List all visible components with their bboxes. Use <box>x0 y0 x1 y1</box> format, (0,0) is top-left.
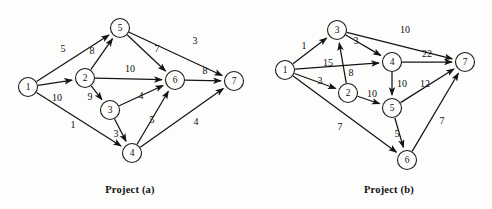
node-label-4: 4 <box>130 148 135 158</box>
edge-weight-3-4: 3 <box>354 35 359 46</box>
edge-1-to-4 <box>295 63 379 69</box>
node-label-2: 2 <box>346 88 351 98</box>
edge-weight-3-7: 10 <box>400 24 410 35</box>
edge-layer: 1153781031022101257 <box>293 24 458 153</box>
edge-weight-4-5: 10 <box>397 78 407 89</box>
edge-weight-3-4: 3 <box>114 128 119 139</box>
edge-1-to-2 <box>38 80 72 85</box>
graph-project-b: 11537810310221012571234567Project (b) <box>276 21 475 196</box>
edge-weight-2-3: 8 <box>349 67 354 78</box>
edge-3-to-7 <box>347 32 452 58</box>
graphs-root: 5101810943547381234567Project (a)1153781… <box>19 19 475 196</box>
node-3[interactable]: 3 <box>101 101 120 120</box>
edge-weight-4-7: 22 <box>422 48 432 59</box>
edge-1-to-3 <box>293 38 327 64</box>
node-label-6: 6 <box>405 155 410 165</box>
node-label-5: 5 <box>118 23 123 33</box>
edge-weight-4-6: 5 <box>150 114 155 125</box>
node-label-7: 7 <box>232 76 237 86</box>
node-1[interactable]: 1 <box>19 78 38 97</box>
node-2[interactable]: 2 <box>76 69 95 88</box>
node-label-1: 1 <box>26 82 31 92</box>
edge-3-to-4 <box>346 35 381 55</box>
edge-2-to-6 <box>95 78 162 79</box>
node-label-7: 7 <box>463 57 468 67</box>
edge-weight-2-3: 9 <box>88 91 93 102</box>
node-5[interactable]: 5 <box>111 19 130 38</box>
edge-weight-6-7: 7 <box>440 115 445 126</box>
node-label-3: 3 <box>108 105 113 115</box>
edge-weight-4-7: 4 <box>194 116 199 127</box>
node-label-4: 4 <box>390 57 395 67</box>
edge-weight-5-6: 5 <box>395 128 400 139</box>
edge-2-to-3 <box>91 86 102 100</box>
node-6[interactable]: 6 <box>166 71 185 90</box>
edge-6-to-7 <box>185 80 221 81</box>
edge-weight-1-5: 5 <box>61 43 66 54</box>
node-layer: 1234567 <box>19 19 244 163</box>
node-6[interactable]: 6 <box>398 151 417 170</box>
edge-2-to-3 <box>339 43 346 83</box>
graph-canvas: 5101810943547381234567Project (a)1153781… <box>0 0 492 209</box>
caption-project-b: Project (b) <box>364 184 414 196</box>
node-2[interactable]: 2 <box>339 84 358 103</box>
edge-weight-1-4: 1 <box>71 119 76 130</box>
node-5[interactable]: 5 <box>383 99 402 118</box>
edge-weight-1-2: 3 <box>318 75 323 86</box>
edge-weight-2-6: 10 <box>125 63 135 74</box>
node-1[interactable]: 1 <box>276 61 295 80</box>
edge-weight-3-6: 4 <box>139 90 144 101</box>
node-label-3: 3 <box>335 25 340 35</box>
edge-weight-5-7: 3 <box>193 35 198 46</box>
project-network-figure: 5101810943547381234567Project (a)1153781… <box>0 0 492 209</box>
edge-weight-1-2: 10 <box>52 92 62 103</box>
node-label-6: 6 <box>173 75 178 85</box>
edge-weight-1-3: 1 <box>302 40 307 51</box>
caption-project-a: Project (a) <box>105 184 155 196</box>
node-3[interactable]: 3 <box>328 21 347 40</box>
node-4[interactable]: 4 <box>123 144 142 163</box>
edge-weight-2-5: 10 <box>367 88 377 99</box>
node-label-5: 5 <box>390 103 395 113</box>
edge-layer: 510181094354738 <box>37 32 224 147</box>
node-label-2: 2 <box>83 73 88 83</box>
graph-project-a: 5101810943547381234567Project (a) <box>19 19 244 196</box>
node-label-1: 1 <box>283 65 288 75</box>
edge-5-to-7 <box>129 32 222 75</box>
edge-weight-1-4: 15 <box>323 57 333 68</box>
node-4[interactable]: 4 <box>383 53 402 72</box>
edge-weight-6-7: 8 <box>203 65 208 76</box>
node-7[interactable]: 7 <box>456 53 475 72</box>
node-7[interactable]: 7 <box>225 72 244 91</box>
edge-weight-1-6: 7 <box>338 121 343 132</box>
edge-weight-5-7: 12 <box>420 78 430 89</box>
edge-weight-2-5: 8 <box>90 45 95 56</box>
